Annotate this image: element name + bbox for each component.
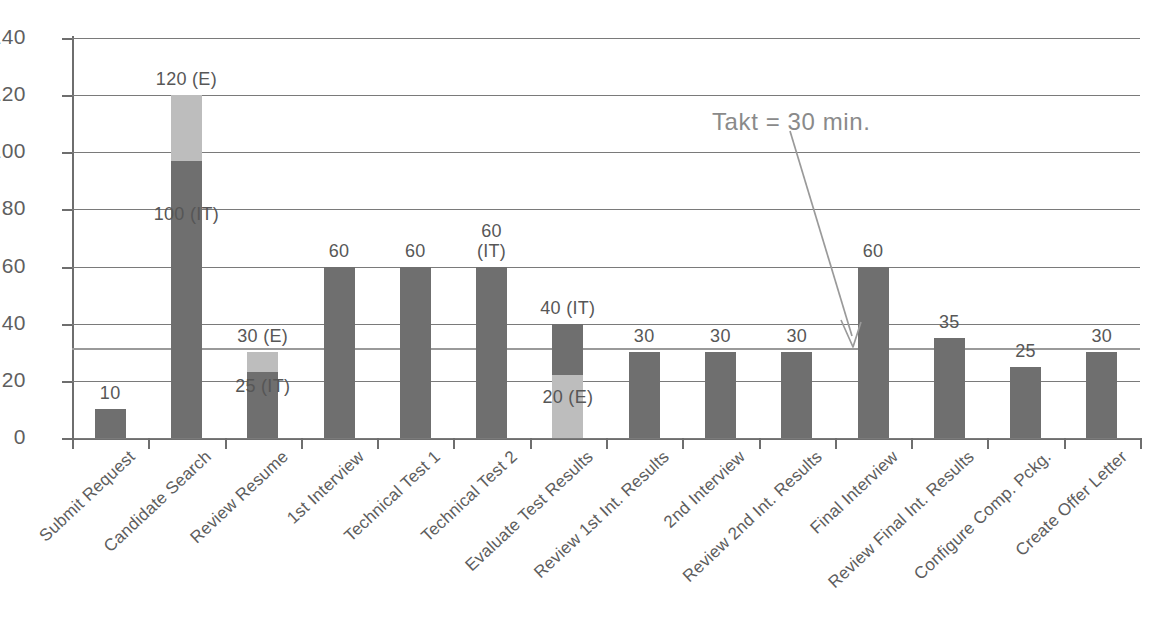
x-axis-tick xyxy=(1064,438,1066,449)
plot-area: 02040608010012014010120 (E)100 (IT)30 (E… xyxy=(72,38,1140,438)
category-label: Evaluate Test Results xyxy=(461,447,597,576)
x-axis-tick xyxy=(72,438,74,449)
x-axis-tick xyxy=(682,438,684,449)
bar-value-label: 60 xyxy=(808,241,938,261)
bar-value-label: 40 (IT) xyxy=(503,298,633,318)
bar-chart: 02040608010012014010120 (E)100 (IT)30 (E… xyxy=(0,0,1173,628)
category-label: Review 2nd Int. Results xyxy=(679,447,827,587)
x-axis-tick xyxy=(987,438,989,449)
y-axis-tick-label: 140 xyxy=(0,25,26,49)
bar-value-label: 30 (E) xyxy=(198,326,328,346)
y-axis-tick-label: 120 xyxy=(0,82,26,106)
bar[interactable] xyxy=(400,267,431,438)
bar-segment-value-label: 25 (IT) xyxy=(198,376,328,396)
category-label: Final Interview xyxy=(807,447,903,538)
category-label: Candidate Search xyxy=(101,447,217,557)
y-axis-tick-label: 40 xyxy=(2,311,26,335)
bar-segment-it xyxy=(95,409,126,438)
x-axis-tick xyxy=(759,438,761,449)
category-label: 2nd Interview xyxy=(661,447,750,532)
bar-value-label: 120 (E) xyxy=(121,69,251,89)
bar-segment-it xyxy=(476,267,507,438)
bar[interactable] xyxy=(629,352,660,438)
y-axis-tick xyxy=(62,324,72,326)
x-axis-tick xyxy=(530,438,532,449)
takt-annotation-label: Takt = 30 min. xyxy=(712,108,870,136)
bar-segment-it xyxy=(171,161,202,438)
category-label: 1st Interview xyxy=(283,447,368,528)
y-axis-tick xyxy=(62,438,72,440)
x-axis-tick xyxy=(148,438,150,449)
gridline xyxy=(72,95,1140,96)
bar-segment-e xyxy=(247,352,278,372)
gridline xyxy=(72,38,1140,39)
y-axis-tick-label: 0 xyxy=(14,425,26,449)
x-axis-tick xyxy=(911,438,913,449)
bar[interactable] xyxy=(1010,367,1041,438)
y-axis-tick xyxy=(62,209,72,211)
bar-segment-value-label: 20 (E) xyxy=(503,387,633,407)
y-axis-tick-label: 20 xyxy=(2,368,26,392)
category-label: Configure Comp. Pckg. xyxy=(910,447,1055,584)
bar-value-label: 30 xyxy=(732,326,862,346)
x-axis-tick xyxy=(1140,438,1142,449)
bar[interactable] xyxy=(476,267,507,438)
bar-segment-it xyxy=(324,267,355,438)
x-axis-tick xyxy=(225,438,227,449)
bar-segment-it xyxy=(1010,367,1041,438)
bar[interactable] xyxy=(1086,352,1117,438)
bar-segment-it xyxy=(781,352,812,438)
y-axis-tick-label: 100 xyxy=(0,139,26,163)
y-axis-tick xyxy=(62,95,72,97)
y-axis-tick xyxy=(62,267,72,269)
category-label: Technical Test 1 xyxy=(341,447,445,546)
bar[interactable] xyxy=(95,409,126,438)
x-axis-tick xyxy=(377,438,379,449)
category-label: Review 1st Int. Results xyxy=(530,447,673,583)
bar-value-label: 10 xyxy=(45,383,175,403)
bar-segment-it xyxy=(705,352,736,438)
bar-value-label: 60 (IT) xyxy=(427,221,557,261)
bar[interactable] xyxy=(858,267,889,438)
bar-segment-it xyxy=(1086,352,1117,438)
category-label: Review Resume xyxy=(186,447,292,548)
category-label: Submit Request xyxy=(36,447,140,546)
bar-value-label: 35 xyxy=(884,312,1014,332)
y-axis-tick xyxy=(62,38,72,40)
gridline xyxy=(72,267,1140,268)
bar-segment-value-label: 100 (IT) xyxy=(121,204,251,224)
bar[interactable] xyxy=(705,352,736,438)
x-axis-tick xyxy=(835,438,837,449)
bar-segment-it xyxy=(858,267,889,438)
bar-segment-it xyxy=(629,352,660,438)
bar[interactable] xyxy=(324,267,355,438)
category-label: Technical Test 2 xyxy=(417,447,521,546)
y-axis-tick-label: 60 xyxy=(2,254,26,278)
y-axis-tick-label: 80 xyxy=(2,196,26,220)
bar[interactable] xyxy=(781,352,812,438)
x-axis-tick xyxy=(453,438,455,449)
gridline xyxy=(72,152,1140,153)
category-label: Review Final Int. Results xyxy=(825,447,979,593)
x-axis-tick xyxy=(301,438,303,449)
y-axis-tick xyxy=(62,152,72,154)
category-label: Create Offer Letter xyxy=(1012,447,1132,561)
bar-segment-e xyxy=(171,95,202,161)
bar-value-label: 30 xyxy=(1037,326,1167,346)
x-axis-tick xyxy=(606,438,608,449)
bar-segment-it xyxy=(400,267,431,438)
